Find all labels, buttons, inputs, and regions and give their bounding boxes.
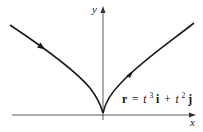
y-axis-label: y (91, 3, 97, 15)
y-axis (101, 6, 106, 120)
eq-t2: t (176, 93, 180, 105)
diagram-canvas: x y r = t 3 i + t 2 j (0, 0, 203, 132)
eq-t1: t (143, 93, 147, 105)
x-axis (12, 113, 196, 118)
eq-plus: + (164, 93, 171, 105)
eq-exp2: 2 (182, 91, 186, 100)
eq-i: i (156, 93, 160, 105)
y-axis-arrow-icon (101, 6, 106, 13)
eq-exp1: 3 (149, 91, 153, 100)
curve-equation: r = t 3 i + t 2 j (122, 88, 192, 106)
eq-r: r (122, 93, 127, 105)
eq-j: j (187, 93, 192, 106)
x-axis-label: x (189, 116, 195, 128)
eq-equals: = (132, 93, 139, 105)
curve-left-branch (10, 25, 103, 113)
